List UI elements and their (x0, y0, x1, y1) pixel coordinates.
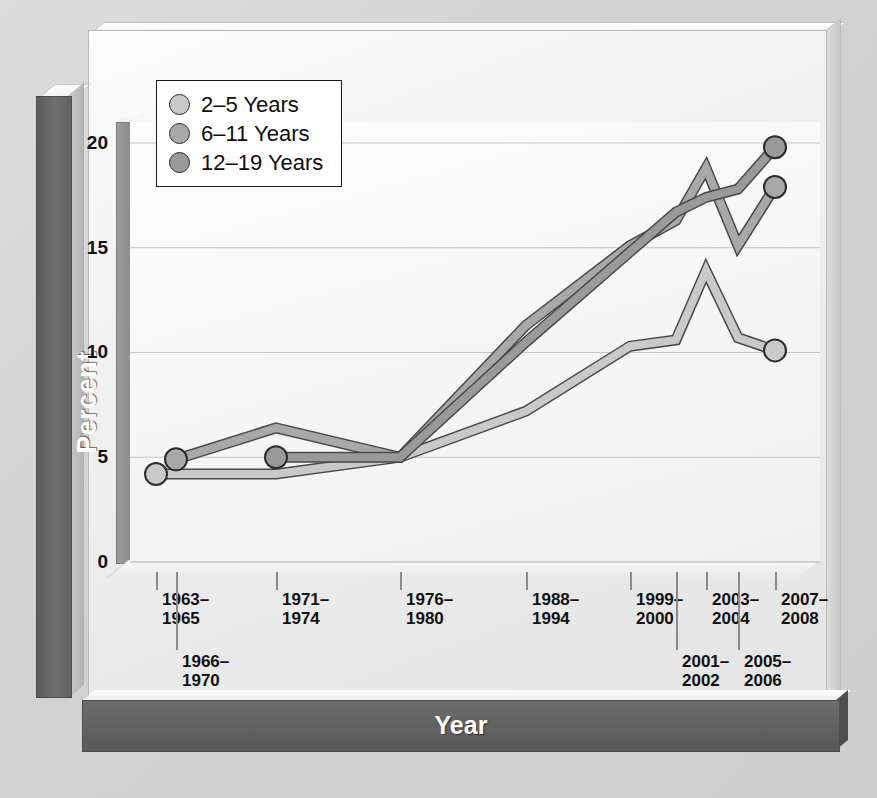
series-line-outline (156, 271, 775, 474)
x-axis-title: Year (83, 711, 839, 740)
data-point-marker (764, 136, 786, 158)
back-wall-right-bevel (826, 18, 841, 722)
data-point-marker (145, 463, 167, 485)
data-point-marker (764, 176, 786, 198)
legend-item: 12–19 Years (169, 148, 323, 177)
y-axis-title-slab: Percent (36, 96, 72, 698)
legend-item: 2–5 Years (169, 90, 323, 119)
data-point-marker (165, 448, 187, 470)
legend-item-label: 2–5 Years (201, 92, 299, 118)
legend-marker-icon (169, 94, 190, 115)
series-line (156, 271, 775, 474)
x-axis-title-slab: Year (82, 700, 840, 752)
y-axis-title: Percent (72, 103, 103, 703)
legend: 2–5 Years6–11 Years12–19 Years (156, 80, 342, 187)
legend-marker-icon (169, 152, 190, 173)
data-point-marker (764, 339, 786, 361)
legend-item-label: 12–19 Years (201, 150, 323, 176)
legend-marker-icon (169, 123, 190, 144)
data-point-marker (265, 446, 287, 468)
plot-svg (130, 122, 820, 562)
chart-figure: Percent 201510501963– 19651966– 19701971… (0, 0, 877, 798)
legend-item: 6–11 Years (169, 119, 323, 148)
plot-area (130, 122, 820, 562)
legend-item-label: 6–11 Years (201, 121, 309, 147)
